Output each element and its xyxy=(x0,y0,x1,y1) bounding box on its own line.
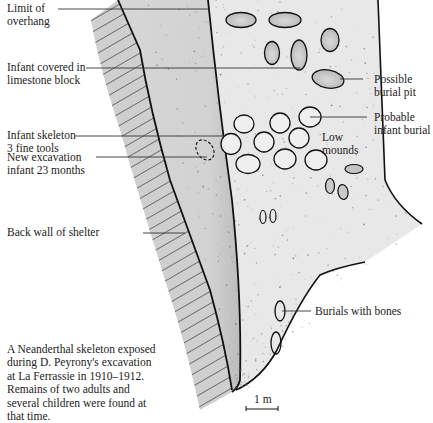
speckle-dot xyxy=(240,383,242,385)
speckle-dot xyxy=(247,206,248,207)
speckle-dot xyxy=(242,107,243,108)
speckle-dot xyxy=(363,224,365,226)
speckle-dot xyxy=(235,375,236,376)
speckle-dot xyxy=(240,389,241,390)
speckle-dot xyxy=(354,30,355,31)
label-probable-infant-burial: Probable infant burial xyxy=(374,111,431,137)
speckle-dot xyxy=(245,334,246,335)
speckle-dot xyxy=(231,314,232,315)
speckle-dot xyxy=(344,258,346,260)
speckle-dot xyxy=(267,353,268,354)
speckle-dot xyxy=(199,216,200,217)
speckle-dot xyxy=(255,133,256,134)
speckle-dot xyxy=(195,167,196,168)
speckle-dot xyxy=(224,102,225,103)
speckle-dot xyxy=(305,94,306,95)
speckle-dot xyxy=(200,5,201,6)
speckle-dot xyxy=(211,274,212,275)
speckle-dot xyxy=(248,386,249,387)
speckle-dot xyxy=(194,51,196,53)
speckle-dot xyxy=(224,9,225,10)
speckle-dot xyxy=(253,346,254,347)
speckle-dot xyxy=(372,209,373,210)
speckle-dot xyxy=(295,255,297,257)
speckle-dot xyxy=(390,206,391,207)
speckle-dot xyxy=(234,181,236,183)
speckle-dot xyxy=(306,294,307,295)
speckle-dot xyxy=(396,234,397,235)
speckle-dot xyxy=(251,242,252,243)
speckle-dot xyxy=(292,274,293,275)
speckle-dot xyxy=(212,129,213,130)
speckle-dot xyxy=(265,41,266,42)
speckle-dot xyxy=(237,203,238,204)
speckle-dot xyxy=(226,284,228,286)
speckle-dot xyxy=(248,378,249,379)
label-new-excavation: New excavation infant 23 months xyxy=(7,151,85,177)
speckle-dot xyxy=(283,335,284,336)
speckle-dot xyxy=(199,27,200,28)
speckle-dot xyxy=(283,141,284,142)
speckle-dot xyxy=(218,260,219,261)
speckle-dot xyxy=(301,327,302,328)
speckle-dot xyxy=(243,382,244,383)
speckle-dot xyxy=(370,93,371,94)
speckle-dot xyxy=(220,241,221,242)
speckle-dot xyxy=(327,264,329,266)
speckle-dot xyxy=(208,188,209,189)
speckle-dot xyxy=(293,177,295,179)
speckle-dot xyxy=(232,308,233,309)
mound-circle xyxy=(234,115,254,133)
speckle-dot xyxy=(365,147,367,149)
speckle-dot xyxy=(388,238,389,239)
speckle-dot xyxy=(215,194,217,196)
speckle-dot xyxy=(244,199,246,201)
speckle-dot xyxy=(234,285,235,286)
speckle-dot xyxy=(246,375,247,376)
speckle-dot xyxy=(329,66,331,68)
speckle-dot xyxy=(356,93,357,94)
speckle-dot xyxy=(231,256,232,257)
speckle-dot xyxy=(255,314,256,315)
speckle-dot xyxy=(195,70,197,72)
speckle-dot xyxy=(379,251,380,252)
speckle-dot xyxy=(162,59,163,60)
speckle-dot xyxy=(373,105,374,106)
speckle-dot xyxy=(216,32,218,34)
speckle-dot xyxy=(340,228,341,229)
speckle-dot xyxy=(235,323,237,325)
speckle-dot xyxy=(270,190,271,191)
speckle-dot xyxy=(245,360,247,362)
speckle-dot xyxy=(252,370,253,371)
speckle-dot xyxy=(165,35,167,37)
speckle-dot xyxy=(235,381,236,382)
speckle-dot xyxy=(226,231,227,232)
speckle-dot xyxy=(198,211,199,212)
speckle-dot xyxy=(254,284,255,285)
speckle-dot xyxy=(304,72,305,73)
speckle-dot xyxy=(216,91,217,92)
speckle-dot xyxy=(229,246,231,248)
speckle-dot xyxy=(247,137,248,138)
speckle-dot xyxy=(359,257,360,258)
speckle-dot xyxy=(229,345,230,346)
speckle-dot xyxy=(219,253,220,254)
speckle-dot xyxy=(367,78,368,79)
scale-bar-label: 1 m xyxy=(254,393,272,405)
speckle-dot xyxy=(330,176,331,177)
speckle-dot xyxy=(264,213,265,214)
label-low-mounds: Low mounds xyxy=(322,131,358,157)
speckle-dot xyxy=(222,250,223,251)
speckle-dot xyxy=(242,382,243,383)
speckle-dot xyxy=(292,331,294,333)
speckle-dot xyxy=(258,348,259,349)
speckle-dot xyxy=(336,91,337,92)
speckle-dot xyxy=(366,107,367,108)
speckle-dot xyxy=(237,353,239,355)
speckle-dot xyxy=(238,87,239,88)
speckle-dot xyxy=(356,177,357,178)
speckle-dot xyxy=(285,338,286,339)
speckle-dot xyxy=(354,58,355,59)
speckle-dot xyxy=(363,48,364,49)
speckle-dot xyxy=(156,64,158,66)
